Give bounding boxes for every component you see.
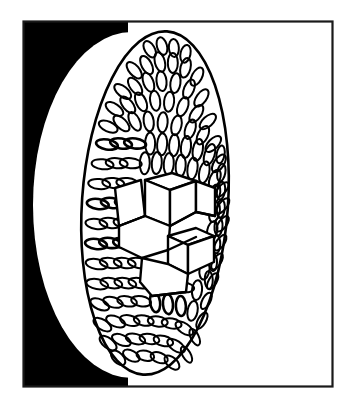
figure-root: Hand-drawn ink illustration tilted disk … <box>0 0 357 418</box>
line-drawing-svg <box>0 0 357 418</box>
cube-right-shelf <box>196 181 215 216</box>
